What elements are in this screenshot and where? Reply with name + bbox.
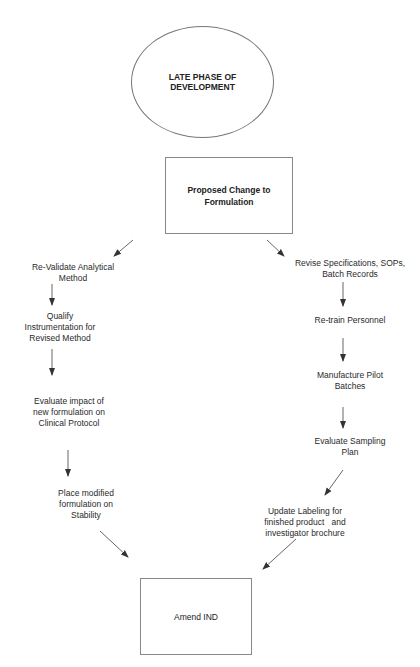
flow-arrows	[0, 0, 420, 667]
arrow-to-revise-specs	[267, 240, 284, 256]
arrow-to-revalidate	[114, 240, 133, 256]
